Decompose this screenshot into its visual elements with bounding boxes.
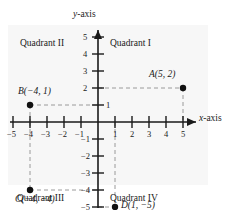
x-tick-label-4: 4 [164,130,168,139]
x-axis-label-suffix: -axis [203,113,221,123]
x-axis-arrow-icon [187,118,196,126]
y-tick-label--5: −5 [81,203,90,210]
point-d-marker[interactable] [112,204,118,210]
y-tick-label--2: −2 [81,152,90,161]
y-axis-label-suffix: -axis [77,9,95,19]
x-tick-label-5: 5 [181,130,185,139]
x-axis-label: x-axis [199,114,222,124]
x-tick-label-1: 1 [113,130,117,139]
y-axis-label: y-axis [73,10,96,20]
y-tick-label-4: 4 [83,50,87,59]
x-tick-label-2: 2 [130,130,134,139]
x-tick-label--1: −1 [75,130,84,139]
point-b-marker[interactable] [27,102,33,108]
point-d-label: D(1, −5) [121,201,155,210]
x-tick-label--2: −2 [58,130,67,139]
point-a-marker[interactable] [180,85,186,91]
point-a-label: A(5, 2) [149,70,175,80]
quadrant-1-label: Quadrant I [110,39,151,49]
y-tick-label-5: 5 [83,33,87,42]
coordinate-plane-graphic [0,0,225,210]
point-b-label: B(−4, 1) [18,87,51,97]
y-tick-label-2: 2 [83,84,87,93]
y-tick-label-3: 3 [83,67,87,76]
x-tick-label--5: −5 [7,130,16,139]
y-tick-label--4: −4 [81,186,90,195]
point-c-label: C(−4, −4) [15,195,55,205]
quadrant-2-label: Quadrant II [20,39,64,49]
x-tick-label--4: −4 [24,130,33,139]
y-tick-label-1: 1 [106,101,110,110]
x-tick-label-3: 3 [147,130,151,139]
y-tick-label--3: −3 [81,169,90,178]
x-tick-label--3: −3 [41,130,50,139]
